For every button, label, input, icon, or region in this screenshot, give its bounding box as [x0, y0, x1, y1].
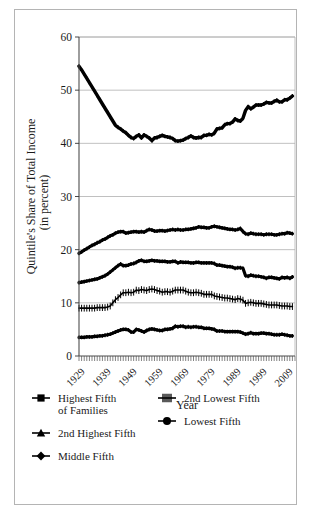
- y-axis-title-line2: (in percent): [37, 175, 51, 231]
- legend-label: Lowest Fifth: [184, 415, 241, 427]
- legend-label: Highest Fifth: [58, 392, 117, 404]
- legend-item[interactable]: 2nd Lowest Fifth: [158, 392, 260, 404]
- legend-item[interactable]: 2nd Highest Fifth: [32, 427, 136, 439]
- legend-label: Middle Fifth: [58, 450, 114, 462]
- legend-item[interactable]: Middle Fifth: [32, 450, 114, 462]
- chart-legend: Highest Fifthof Families2nd Highest Fift…: [32, 392, 260, 462]
- legend-label-second-line: of Families: [58, 404, 108, 416]
- legend-label: 2nd Lowest Fifth: [184, 392, 260, 404]
- y-tick-label-0: 0: [66, 350, 72, 362]
- legend-item[interactable]: Lowest Fifth: [158, 415, 241, 427]
- x-tick-label-1959: 1959: [142, 366, 165, 389]
- x-tick-labels: 192919391949195919691979198919992009: [64, 366, 295, 389]
- x-tick-label-1929: 1929: [64, 366, 87, 389]
- y-tick-label-60: 60: [61, 31, 73, 43]
- figure-root: 0102030405060 19291939194919591969197919…: [0, 0, 310, 523]
- x-tick-label-1969: 1969: [168, 366, 191, 389]
- legend-marker-circle-icon: [163, 417, 171, 425]
- y-tick-label-30: 30: [61, 191, 73, 203]
- axis-titles: YearQuintile's Share of Total Income(in …: [24, 119, 198, 412]
- y-tick-label-50: 50: [61, 84, 73, 96]
- x-tick-label-1999: 1999: [246, 366, 269, 389]
- grid-lines: [79, 37, 295, 356]
- x-tick-label-2009: 2009: [272, 366, 295, 389]
- legend-marker-diamond-icon: [37, 452, 46, 461]
- y-tick-label-20: 20: [61, 244, 73, 256]
- figure-frame: 0102030405060 19291939194919591969197919…: [14, 9, 297, 505]
- y-tick-label-10: 10: [61, 297, 73, 309]
- income-quintile-line-chart: 0102030405060 19291939194919591969197919…: [15, 10, 296, 504]
- legend-item[interactable]: Highest Fifthof Families: [32, 392, 117, 416]
- y-axis-title-line1: Quintile's Share of Total Income: [24, 119, 38, 275]
- axis-lines: [75, 37, 295, 361]
- legend-label: 2nd Highest Fifth: [58, 427, 136, 439]
- series-line-highest-fifth-of-families: [79, 66, 292, 141]
- x-tick-label-1949: 1949: [116, 366, 139, 389]
- x-tick-label-1989: 1989: [220, 366, 243, 389]
- x-tick-label-1979: 1979: [194, 366, 217, 389]
- legend-marker-square-icon: [37, 394, 44, 401]
- series-layer: [79, 64, 292, 339]
- y-tick-labels: 0102030405060: [61, 31, 73, 362]
- x-tick-label-1939: 1939: [90, 366, 113, 389]
- y-tick-label-40: 40: [61, 137, 73, 149]
